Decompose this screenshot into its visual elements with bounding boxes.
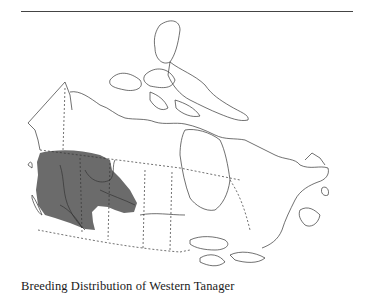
breeding-range bbox=[36, 150, 137, 230]
map-caption: Breeding Distribution of Western Tanager bbox=[21, 279, 234, 294]
canada-map bbox=[0, 0, 371, 296]
